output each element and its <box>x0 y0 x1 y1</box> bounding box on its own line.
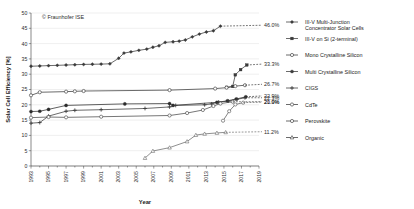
data-point-marker <box>82 63 85 66</box>
x-tick-label: 2009 <box>168 171 174 183</box>
data-point-marker <box>290 20 293 23</box>
data-point-marker <box>185 140 189 143</box>
legend-item-1[interactable] <box>286 37 298 40</box>
series-line <box>31 26 220 66</box>
series-end-label: 20.9% <box>264 99 279 105</box>
credit-note: © Fraunhofer ISE <box>42 14 84 20</box>
legend-item-3[interactable] <box>286 70 298 73</box>
series-2 <box>29 84 262 97</box>
chart-canvas: 0510152025303540455019931995199719992001… <box>0 0 414 209</box>
legend-label-2: Concentrator Solar Cells <box>305 25 364 31</box>
data-point-marker <box>145 47 148 50</box>
legend-item-5[interactable] <box>286 103 298 106</box>
series-leader-line <box>247 64 262 65</box>
series-leader-line <box>220 25 262 26</box>
data-point-marker <box>47 115 50 118</box>
legend-label: Organic <box>305 135 324 141</box>
series-end-label: 26.7% <box>264 81 279 87</box>
legend-item-4[interactable] <box>286 86 298 90</box>
data-point-marker <box>29 65 32 68</box>
data-point-marker <box>290 70 293 73</box>
y-tick-label: 30 <box>22 71 28 77</box>
data-point-marker <box>291 37 294 40</box>
efficiency-chart: 0510152025303540455019931995199719992001… <box>0 0 414 209</box>
data-point-marker <box>47 64 50 67</box>
series-end-label: 33.3% <box>264 61 279 67</box>
data-point-marker <box>157 44 160 47</box>
x-axis-title: Year <box>139 199 152 205</box>
data-point-marker <box>205 30 208 33</box>
data-point-marker <box>228 110 231 113</box>
x-tick-label: 2005 <box>133 171 139 183</box>
data-point-marker <box>143 107 147 111</box>
x-tick-label: 2017 <box>238 171 244 183</box>
series-end-label: 11.2% <box>264 129 279 135</box>
x-tick-label: 1993 <box>28 171 34 183</box>
legend-label: III-V Multi-Junction <box>305 19 350 25</box>
data-point-marker <box>38 110 41 113</box>
x-tick-label: 2001 <box>98 171 104 183</box>
data-point-marker <box>234 73 237 76</box>
y-tick-label: 20 <box>22 102 28 108</box>
x-tick-label: 2007 <box>150 171 156 183</box>
series-6 <box>221 101 262 122</box>
data-point-marker <box>29 116 32 119</box>
data-point-marker <box>73 63 76 66</box>
y-tick-label: 45 <box>22 25 28 31</box>
x-tick-label: 2011 <box>185 171 191 182</box>
data-point-marker <box>191 35 194 38</box>
data-point-marker <box>137 49 140 52</box>
y-tick-label: 35 <box>22 56 28 62</box>
data-point-marker <box>185 111 188 114</box>
data-point-marker <box>221 119 224 122</box>
series-5 <box>29 100 262 119</box>
series-3 <box>29 95 262 113</box>
y-tick-label: 50 <box>22 10 28 16</box>
x-tick-label: 1997 <box>63 171 69 183</box>
data-point-marker <box>99 108 103 112</box>
legend-item-7[interactable] <box>286 136 298 139</box>
data-point-marker <box>29 110 32 113</box>
legend-item-2[interactable] <box>286 53 298 56</box>
data-point-marker <box>91 63 94 66</box>
data-point-marker <box>123 102 126 105</box>
legend-item-0[interactable] <box>286 20 298 23</box>
y-tick-label: 0 <box>25 163 28 169</box>
data-point-marker <box>129 50 132 53</box>
data-point-marker <box>108 62 111 65</box>
data-point-marker <box>47 108 50 111</box>
data-point-marker <box>38 64 41 67</box>
data-point-marker <box>64 104 67 107</box>
x-tick-label: 1999 <box>80 171 86 183</box>
legend-label: III-V on Si (2-terminal) <box>305 36 358 42</box>
data-point-marker <box>219 102 222 105</box>
data-point-marker <box>73 108 77 112</box>
series-leader-line <box>243 102 262 103</box>
data-point-marker <box>151 46 154 49</box>
data-point-marker <box>178 39 181 42</box>
y-tick-label: 15 <box>22 117 28 123</box>
data-point-marker <box>100 115 103 118</box>
series-end-label: 46.0% <box>264 22 279 28</box>
x-tick-label: 1995 <box>45 171 51 183</box>
data-point-marker <box>99 62 102 65</box>
data-point-marker <box>201 108 204 111</box>
legend-label: Perovskite <box>305 118 330 124</box>
series-0 <box>29 24 262 67</box>
data-point-marker <box>64 109 68 113</box>
data-point-marker <box>168 89 171 92</box>
series-leader-line <box>226 132 262 133</box>
series-line <box>223 103 243 121</box>
data-point-marker <box>212 104 215 107</box>
series-line <box>31 85 245 95</box>
data-point-marker <box>73 90 76 93</box>
data-point-marker <box>64 63 67 66</box>
series-leader-line <box>246 96 262 97</box>
data-point-marker <box>290 119 293 122</box>
legend-item-6[interactable] <box>286 119 298 122</box>
data-point-marker <box>29 121 33 125</box>
series-line <box>145 132 226 158</box>
data-point-marker <box>168 114 171 117</box>
data-point-marker <box>184 38 187 41</box>
x-tick-label: 2015 <box>221 171 227 183</box>
